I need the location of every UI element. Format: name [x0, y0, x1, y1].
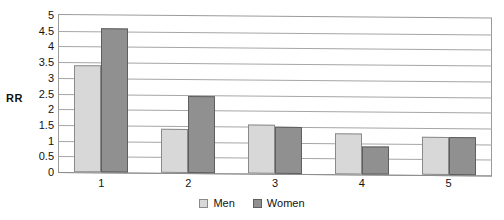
bar-women-5 — [449, 137, 476, 175]
bar-women-1 — [101, 28, 128, 173]
legend-label: Men — [213, 197, 234, 209]
y-tick-label: 2.5 — [28, 89, 54, 99]
x-tick-label: 3 — [255, 177, 295, 189]
y-tick-label: 1.5 — [28, 120, 54, 130]
y-tick-label: 1 — [28, 136, 54, 146]
plot-area — [58, 14, 492, 173]
chart-legend: MenWomen — [0, 197, 504, 209]
bar-group — [74, 14, 128, 172]
legend-item-women[interactable]: Women — [253, 197, 305, 209]
legend-swatch-men-icon — [199, 199, 208, 208]
bar-men-5 — [422, 137, 449, 175]
legend-label: Women — [267, 197, 305, 209]
x-tick-label: 2 — [168, 177, 208, 189]
y-tick-label: 3 — [28, 73, 54, 83]
bar-group — [335, 16, 389, 174]
bar-chart-figure: RR 54.543.532.521.510.50 12345 MenWomen — [0, 0, 504, 220]
legend-swatch-women-icon — [253, 199, 262, 208]
y-tick-label: 4 — [28, 41, 54, 51]
bar-men-2 — [161, 129, 188, 173]
y-tick-label: 0 — [28, 167, 54, 177]
bar-group — [422, 17, 476, 175]
bar-women-3 — [275, 127, 302, 174]
bar-women-4 — [362, 146, 389, 174]
y-tick-label: 5 — [28, 10, 54, 20]
bar-men-4 — [335, 133, 362, 174]
bar-group — [248, 15, 302, 173]
x-tick-label: 4 — [342, 177, 382, 189]
x-tick-label: 1 — [81, 177, 121, 189]
y-tick-label: 4.5 — [28, 26, 54, 36]
plot-skew-wrapper — [58, 14, 492, 176]
y-tick-label: 2 — [28, 104, 54, 114]
y-tick-label: 0.5 — [28, 151, 54, 161]
bar-group — [161, 15, 215, 173]
y-tick-label: 3.5 — [28, 57, 54, 67]
legend-item-men[interactable]: Men — [199, 197, 234, 209]
y-axis-tick-labels: 54.543.532.521.510.50 — [26, 0, 54, 220]
x-tick-label: 5 — [429, 177, 469, 189]
bar-men-1 — [74, 65, 101, 172]
x-axis-tick-labels: 12345 — [58, 177, 492, 193]
bars-layer — [58, 14, 492, 176]
bar-men-3 — [248, 125, 275, 174]
y-axis-title: RR — [6, 92, 23, 104]
bar-women-2 — [188, 96, 215, 173]
